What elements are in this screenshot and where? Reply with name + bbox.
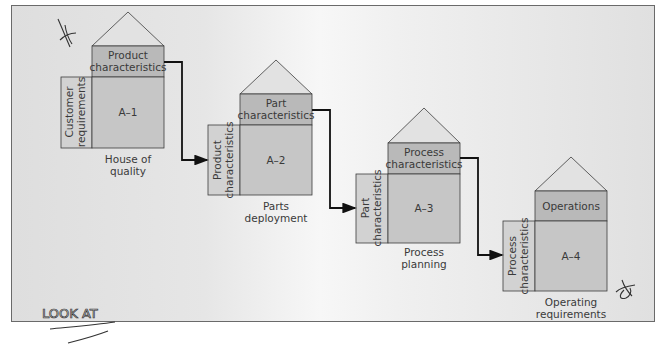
caption: deployment: [245, 212, 308, 224]
house-a4: Operations A–4 Process characteristics O…: [503, 157, 607, 320]
handwritten-scribble-icon: [616, 280, 635, 299]
side-label: characteristics: [223, 122, 235, 199]
caption: Operating: [545, 296, 598, 308]
caption: quality: [110, 165, 146, 177]
flow-arrow-1: [164, 62, 207, 160]
flow-arrow-2: [312, 110, 355, 208]
matrix-label: A–3: [414, 202, 433, 214]
top-label: characteristics: [386, 158, 463, 170]
house-a1: Product characteristics A–1 Customer req…: [61, 12, 166, 177]
side-label: requirements: [75, 77, 87, 147]
top-label: Process: [404, 146, 444, 158]
house-a3: Process characteristics A–3 Part charact…: [356, 108, 462, 270]
handwritten-note: LOOK AT: [42, 306, 115, 343]
top-label: characteristics: [238, 109, 315, 121]
top-label: Product: [108, 49, 148, 61]
qfd-diagram: Product characteristics A–1 Customer req…: [0, 0, 663, 347]
side-label: characteristics: [518, 218, 530, 295]
roof: [240, 60, 312, 94]
top-label: Part: [266, 97, 287, 109]
caption: Parts: [263, 200, 289, 212]
top-label: Operations: [542, 200, 600, 212]
house-a2: Part characteristics A–2 Product charact…: [208, 60, 314, 224]
side-label: Product: [211, 140, 223, 180]
side-label: Customer: [63, 86, 75, 138]
top-label: characteristics: [90, 61, 167, 73]
roof: [92, 12, 164, 46]
side-label: characteristics: [371, 170, 383, 247]
roof: [535, 157, 607, 191]
handwritten-note-text: LOOK AT: [42, 306, 98, 321]
flow-arrow-3: [460, 158, 502, 255]
caption: House of: [105, 153, 152, 165]
matrix-label: A–2: [266, 154, 285, 166]
side-label: Part: [359, 198, 371, 219]
caption: requirements: [536, 308, 606, 320]
caption: Process: [404, 246, 444, 258]
matrix-label: A–4: [561, 250, 580, 262]
handwritten-asterisk-icon: [58, 19, 76, 47]
roof: [388, 108, 460, 143]
caption: planning: [401, 258, 447, 270]
matrix-label: A–1: [118, 106, 137, 118]
side-label: Process: [506, 236, 518, 276]
